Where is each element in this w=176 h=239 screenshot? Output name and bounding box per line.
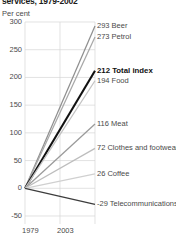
y-axis-tick-label: 150 — [0, 101, 22, 109]
x-axis-tick-label: 2003 — [57, 227, 74, 235]
series-label-food: 194 Food — [97, 77, 129, 85]
y-axis-tick-label: 0 — [0, 184, 22, 192]
y-axis-tick-label: 300 — [0, 18, 22, 26]
x-axis-tick-label: 1979 — [22, 227, 39, 235]
y-axis-tick-label: 100 — [0, 129, 22, 137]
series-label-clothes-and-footwear: 72 Clothes and footwear — [97, 144, 176, 152]
series-label-telecommunications: -29 Telecommunications — [97, 200, 176, 208]
series-label-coffee: 26 Coffee — [97, 170, 129, 178]
y-axis-tick-label: 50 — [0, 157, 22, 165]
y-axis-tick-label: -50 — [0, 212, 22, 220]
gridlines — [25, 22, 95, 224]
y-axis-tick-label: 200 — [0, 73, 22, 81]
y-axis-tick-label: 250 — [0, 46, 22, 54]
series-label-petrol: 273 Petrol — [97, 33, 131, 41]
series-label-total-index: 212 Total index — [97, 67, 153, 75]
series-label-beer: 293 Beer — [97, 22, 127, 30]
price-index-fan-chart: services, 1979-2002 Per cent 30025020015… — [0, 0, 176, 239]
series-label-meat: 116 Meat — [97, 120, 128, 128]
